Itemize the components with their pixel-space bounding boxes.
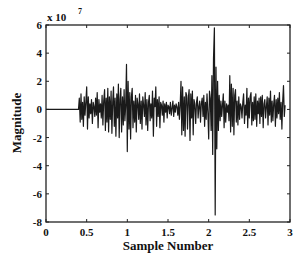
x-tick-label: 2.5 (242, 226, 256, 238)
y-tick-label: -8 (33, 216, 43, 228)
y-exponent-label: x 10 (47, 11, 67, 23)
y-tick-label: -2 (33, 132, 43, 144)
x-tick-label: 1 (125, 226, 131, 238)
axis-ticks (46, 25, 290, 222)
x-tick-label: 0 (43, 226, 49, 238)
y-tick-label: 0 (37, 103, 43, 115)
x-tick-label: 0.5 (80, 226, 94, 238)
y-tick-label: 6 (37, 19, 43, 31)
plot-border (46, 25, 290, 222)
y-tick-label: 2 (37, 75, 43, 87)
x-tick-labels: 00.511.522.53 (43, 226, 293, 238)
x-axis-title: Sample Number (123, 238, 214, 253)
y-axis-title: Magnitude (9, 92, 24, 153)
signal-line (46, 28, 285, 215)
y-tick-label: 4 (37, 47, 43, 59)
waveform-chart: 00.511.522.53 6420-2-4-6-8 x 10 7 Sample… (0, 0, 305, 262)
x-tick-label: 3 (287, 226, 293, 238)
y-exponent-power: 7 (78, 7, 82, 16)
y-tick-label: -6 (33, 188, 43, 200)
x-tick-label: 2 (206, 226, 212, 238)
plot-frame (46, 25, 290, 222)
y-tick-labels: 6420-2-4-6-8 (33, 19, 43, 228)
y-tick-label: -4 (33, 160, 43, 172)
x-tick-label: 1.5 (161, 226, 175, 238)
